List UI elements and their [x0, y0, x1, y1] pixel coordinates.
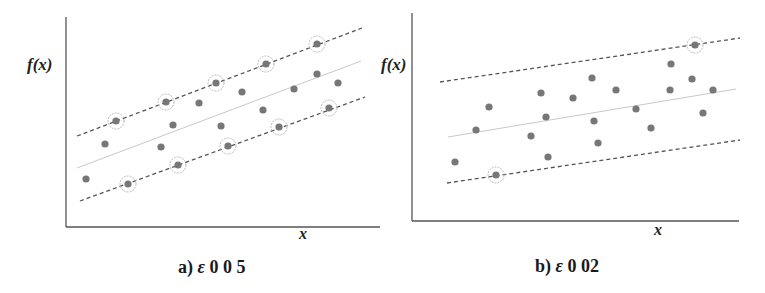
support-vector-point: [492, 171, 499, 178]
data-point: [195, 99, 202, 106]
data-point: [334, 79, 341, 86]
support-vector-point: [162, 98, 169, 105]
panel-a-y-axis-label: f(x): [27, 55, 52, 75]
data-point: [590, 117, 597, 124]
support-vector-point: [124, 180, 131, 187]
data-point: [82, 175, 89, 182]
support-vector-point: [325, 104, 332, 111]
data-point: [451, 158, 458, 165]
epsilon-symbol: ε: [556, 256, 563, 276]
regression-line: [448, 89, 736, 137]
data-point: [666, 86, 673, 93]
chart-canvas: [0, 0, 765, 293]
caption-a-value: 0 0 5: [205, 257, 246, 277]
panel-a-x-axis-label: x: [299, 225, 307, 243]
data-point: [238, 88, 245, 95]
data-point: [527, 132, 534, 139]
lower-epsilon-margin-line: [447, 140, 740, 183]
data-point: [542, 113, 549, 120]
data-point: [594, 139, 601, 146]
support-vector-point: [313, 40, 320, 47]
panel-b-x-axis-label: x: [654, 221, 662, 239]
data-point: [157, 143, 164, 150]
data-point: [612, 86, 619, 93]
data-point: [290, 85, 297, 92]
data-point: [588, 74, 595, 81]
data-point: [544, 153, 551, 160]
data-point: [537, 89, 544, 96]
data-point: [699, 109, 706, 116]
caption-a-prefix: a): [178, 257, 198, 277]
caption-b-prefix: b): [535, 256, 556, 276]
data-point: [485, 103, 492, 110]
support-vector-point: [212, 79, 219, 86]
support-vector-point: [174, 161, 181, 168]
panel-a-plot: [66, 17, 380, 227]
lower-epsilon-margin-line: [80, 97, 365, 201]
support-vector-point: [275, 123, 282, 130]
data-point: [647, 124, 654, 131]
epsilon-symbol: ε: [198, 257, 205, 277]
support-vector-point: [224, 142, 231, 149]
data-point: [472, 126, 479, 133]
support-vector-point: [112, 117, 119, 124]
data-point: [101, 140, 108, 147]
data-point: [569, 94, 576, 101]
caption-b-value: 0 02: [563, 256, 599, 276]
data-point: [688, 75, 695, 82]
panel-a-caption: a) ε 0 0 5: [178, 257, 245, 278]
support-vector-point: [691, 41, 698, 48]
panel-b-y-axis-label: f(x): [381, 55, 406, 75]
data-point: [217, 122, 224, 129]
data-point: [259, 106, 266, 113]
data-point: [709, 86, 716, 93]
data-point: [632, 105, 639, 112]
support-vector-point: [262, 60, 269, 67]
panel-b-plot: [412, 13, 740, 221]
data-point: [169, 121, 176, 128]
data-point: [667, 60, 674, 67]
data-point: [313, 70, 320, 77]
panel-b-caption: b) ε 0 02: [535, 256, 599, 277]
